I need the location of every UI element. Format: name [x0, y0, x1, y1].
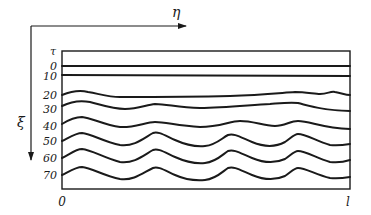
x-start-label: 0 — [58, 195, 66, 209]
row-label: 60 — [43, 152, 57, 165]
profile-tau-10 — [62, 75, 350, 76]
row-label: 30 — [43, 103, 57, 116]
row-label: 40 — [42, 120, 57, 133]
eta-arrowhead-icon — [178, 23, 187, 29]
profile-tau-60 — [62, 149, 350, 163]
profile-tau-50 — [62, 132, 350, 146]
row-label: 20 — [42, 89, 57, 102]
profile-curves — [62, 66, 350, 180]
tau-header: τ — [50, 45, 57, 58]
xi-axis-label: ξ — [17, 114, 26, 130]
eta-axis-label: η — [172, 4, 181, 20]
xi-arrowhead-icon — [28, 152, 34, 161]
x-end-label: l — [346, 195, 350, 209]
profile-tau-30 — [62, 101, 350, 111]
profile-tau-40 — [62, 117, 350, 129]
eta-axis: η — [31, 4, 187, 29]
row-label: 70 — [43, 169, 57, 182]
profile-tau-70 — [62, 167, 350, 180]
profile-tau-20 — [62, 91, 350, 97]
plot-frame — [62, 51, 350, 189]
wave-profile-diagram: η ξ τ 0 10 20 30 40 50 60 70 0 l — [0, 0, 371, 215]
row-label: 10 — [43, 70, 57, 83]
row-label: 50 — [43, 135, 57, 148]
xi-axis: ξ — [17, 26, 34, 161]
